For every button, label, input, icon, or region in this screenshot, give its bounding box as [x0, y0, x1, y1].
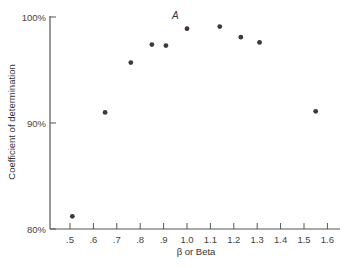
- y-axis-title: Coefficient of determination: [6, 64, 17, 179]
- data-point: [164, 43, 169, 48]
- data-point: [257, 40, 262, 45]
- data-point: [217, 24, 222, 29]
- x-tick-label: 1.1: [204, 234, 217, 245]
- x-tick-label: 1.3: [251, 234, 264, 245]
- x-tick-label: .5: [66, 234, 74, 245]
- data-point: [313, 109, 318, 114]
- y-tick-label: 100%: [22, 12, 47, 23]
- x-axis-title: β or Beta: [177, 246, 216, 257]
- data-point: [185, 26, 190, 31]
- x-tick-label: 1.2: [227, 234, 240, 245]
- y-tick-label: 80%: [27, 224, 47, 235]
- x-tick-label: .6: [89, 234, 97, 245]
- y-axis-ticks: 80%90%100%: [22, 12, 56, 235]
- annotation-a: A: [171, 10, 179, 21]
- data-point: [128, 60, 133, 65]
- x-tick-label: 1.6: [321, 234, 334, 245]
- data-point: [150, 42, 155, 47]
- scatter-chart: 80%90%100% .5.6.7.8.91.01.11.21.31.41.51…: [0, 0, 357, 268]
- x-tick-label: .8: [136, 234, 144, 245]
- x-tick-label: .9: [160, 234, 168, 245]
- x-axis-ticks: .5.6.7.8.91.01.11.21.31.41.51.6: [66, 223, 334, 245]
- data-points: [70, 24, 318, 219]
- x-tick-label: 1.0: [180, 234, 193, 245]
- data-point: [70, 214, 75, 219]
- x-tick-label: 1.5: [297, 234, 310, 245]
- x-tick-label: .7: [113, 234, 121, 245]
- x-tick-label: 1.4: [274, 234, 287, 245]
- data-point: [103, 110, 108, 115]
- data-point: [238, 35, 243, 40]
- y-tick-label: 90%: [27, 118, 47, 129]
